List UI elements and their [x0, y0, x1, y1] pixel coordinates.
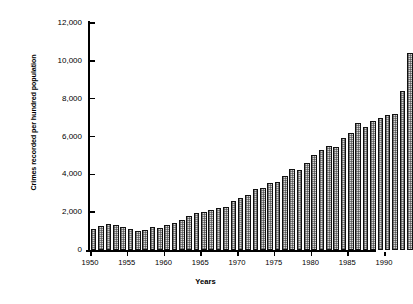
x-tick-mark: [311, 252, 313, 256]
bar: [297, 170, 303, 250]
bar: [253, 189, 259, 250]
x-tick-label: 1980: [291, 258, 331, 267]
x-tick-label: 1965: [180, 258, 220, 267]
bar: [363, 127, 369, 250]
bar: [150, 227, 156, 250]
x-tick-mark: [347, 252, 349, 256]
bar: [120, 227, 126, 250]
bar: [208, 210, 214, 250]
bar: [164, 225, 170, 250]
bar: [179, 220, 185, 250]
bar: [407, 53, 413, 250]
bar: [348, 133, 354, 250]
x-tick-mark: [384, 252, 386, 256]
x-tick-mark: [237, 252, 239, 256]
bar: [142, 230, 148, 250]
x-tick-mark: [90, 252, 92, 256]
bar: [113, 225, 119, 250]
x-tick-label: 1975: [254, 258, 294, 267]
bar: [91, 229, 97, 250]
x-tick-label: 1955: [107, 258, 147, 267]
bar: [341, 138, 347, 250]
x-tick-mark: [200, 252, 202, 256]
bar-series: [0, 23, 411, 250]
bar: [319, 150, 325, 250]
bar: [172, 223, 178, 250]
x-tick-label: 1990: [364, 258, 404, 267]
bar: [370, 121, 376, 250]
x-tick-label: 1985: [327, 258, 367, 267]
bar: [275, 182, 281, 250]
bar: [282, 176, 288, 250]
bar: [186, 216, 192, 250]
x-tick-label: 1950: [70, 258, 110, 267]
x-tick-label: 1960: [144, 258, 184, 267]
bar: [260, 188, 266, 250]
bar: [385, 115, 391, 250]
bar: [289, 169, 295, 250]
bar: [106, 224, 112, 250]
bar: [267, 183, 273, 250]
bar: [98, 226, 104, 250]
bar: [392, 114, 398, 250]
bar: [304, 163, 310, 250]
bar: [326, 146, 332, 250]
x-tick-mark: [274, 252, 276, 256]
x-tick-mark: [164, 252, 166, 256]
x-axis-spine: [86, 250, 376, 252]
bar: [194, 213, 200, 250]
bar: [201, 212, 207, 250]
bar: [216, 208, 222, 250]
x-axis-title: Years: [0, 277, 411, 286]
bar: [400, 91, 406, 250]
x-tick-label: 1970: [217, 258, 257, 267]
x-tick-mark: [127, 252, 129, 256]
bar: [355, 123, 361, 250]
bar: [231, 201, 237, 250]
bar: [311, 155, 317, 250]
bar: [378, 118, 384, 250]
bar: [128, 229, 134, 250]
bar: [157, 228, 163, 250]
bar: [238, 198, 244, 250]
bar: [223, 207, 229, 251]
bar: [245, 195, 251, 250]
bar: [333, 147, 339, 250]
bar: [135, 231, 141, 250]
